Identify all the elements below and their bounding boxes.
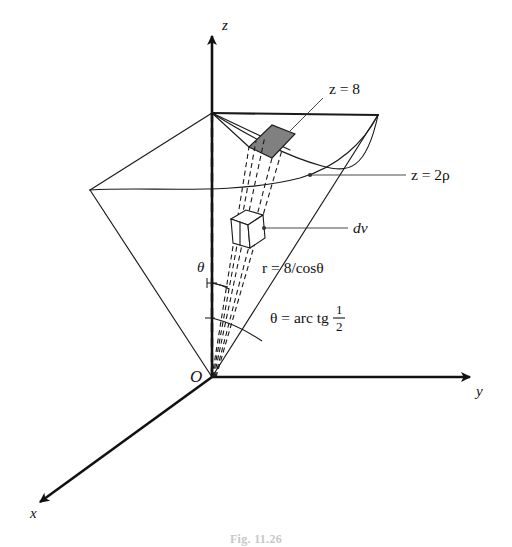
solid-group [90, 113, 378, 377]
angle-arc-group [205, 278, 262, 341]
x-axis [40, 377, 212, 502]
axis-group [40, 36, 470, 502]
volume-element-box [231, 210, 265, 248]
radius-label: r = 8/cosθ [262, 259, 324, 276]
figure-caption: Fig. 11.26 [0, 532, 512, 547]
theta-label: θ [197, 259, 205, 275]
dv-label: dv [353, 219, 368, 236]
cone-right-slant [212, 115, 378, 377]
ray-3 [214, 136, 265, 377]
dv-leader-dot [262, 226, 266, 230]
plane-top-edge [212, 113, 378, 115]
leader-group [262, 98, 406, 230]
fraction-denominator: 2 [336, 319, 343, 334]
cone-leader-dot [308, 173, 312, 177]
cone-rim-back-arc [212, 113, 378, 169]
fraction-numerator: 1 [336, 302, 343, 317]
cone-left-slant [90, 190, 212, 377]
ray-group [212, 136, 282, 377]
wedge-edge-left [212, 113, 249, 147]
z-axis-label: z [221, 17, 228, 33]
cone-label: z = 2ρ [411, 166, 450, 183]
ray-1 [212, 147, 249, 377]
y-axis-label: y [474, 383, 483, 399]
half-angle-fraction: 1 2 [333, 302, 345, 334]
plane-label: z = 8 [329, 80, 360, 97]
half-angle-label: θ = arc tg [270, 309, 329, 326]
origin-label: O [190, 367, 202, 386]
x-axis-label: x [29, 505, 37, 521]
plane-left-edge [90, 113, 212, 190]
